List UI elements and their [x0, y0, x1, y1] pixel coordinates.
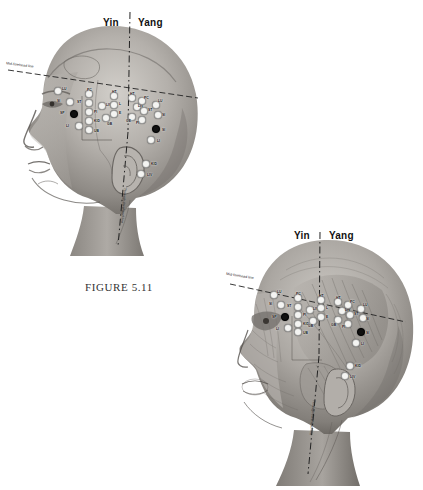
acupoint-label-gb: GB	[107, 122, 112, 126]
acupoint-label-li: LI	[66, 124, 69, 128]
acupoint-st	[85, 99, 93, 107]
acupoint-label-lu: LU	[277, 290, 282, 294]
acupoint-label-pi: PI	[303, 313, 306, 317]
acupoint-liv	[137, 170, 145, 178]
acupoint-label-ht: HT	[130, 92, 135, 96]
acupoint-label-li: LI	[276, 327, 279, 331]
acupoint-st	[140, 107, 148, 115]
acupoint-label-st: ST	[77, 100, 81, 104]
acupoint-lu	[54, 87, 62, 95]
figure-top: Yin Yang Mid-forehead line Through-foreh…	[0, 0, 230, 265]
acupoint-liv	[98, 102, 106, 110]
acupoint-label-ub: UB	[303, 331, 308, 335]
acupoint-label-pc: PC	[296, 292, 301, 296]
acupoint-label-sp: SP	[60, 111, 65, 115]
yin-label-bottom: Yin	[294, 230, 310, 241]
yin-yang-axis-top	[0, 0, 230, 265]
acupoint-pi	[294, 311, 302, 319]
acupoint-label-li: LI	[361, 342, 364, 346]
acupoint-e	[317, 313, 325, 321]
acupoint-label-l: L	[119, 102, 121, 106]
acupoint-label-kid: KID	[94, 119, 100, 123]
acupoint-l	[110, 101, 118, 109]
acupoint-label-e: E	[326, 315, 328, 319]
acupoint-li	[147, 136, 155, 144]
acupoint-label-st: ST	[287, 304, 291, 308]
acupoint-label-e: E	[119, 111, 121, 115]
yang-label-bottom: Yang	[329, 230, 354, 241]
acupoint-si	[357, 328, 365, 336]
acupoint-gb	[102, 114, 110, 122]
acupoint-pi	[85, 108, 93, 116]
acupoint-label-li: LI	[157, 139, 160, 143]
acupoint-label-lu: LU	[158, 99, 163, 103]
acupoint-label-gb: GB	[331, 323, 336, 327]
acupoint-label-si: SI	[269, 302, 272, 306]
acupoint-label-pi: PI	[342, 325, 345, 329]
acupoint-label-si: SI	[366, 317, 369, 321]
acupoint-si	[152, 125, 160, 133]
acupoint-l	[317, 304, 325, 312]
yin-yang-axis-bottom	[228, 222, 423, 490]
yin-label-top: Yin	[103, 17, 119, 28]
acupoint-label-pc: PC	[144, 96, 149, 100]
acupoint-st	[294, 303, 302, 311]
acupoint-si	[154, 111, 162, 119]
acupoint-si	[277, 301, 285, 309]
acupoint-label-pc: PC	[350, 300, 355, 304]
acupoint-label-kid: KID	[151, 162, 157, 166]
acupoint-label-liv: LIV	[350, 375, 355, 379]
acupoint-label-pi: PI	[136, 121, 139, 125]
acupoint-label-gb: GB	[308, 324, 313, 328]
acupoint-sp	[70, 110, 78, 118]
acupoint-label-ht: HT	[336, 296, 341, 300]
acupoint-label-si: SI	[162, 113, 165, 117]
acupoint-kid	[346, 362, 354, 370]
acupoint-label-ht: HT	[319, 294, 324, 298]
acupoint-label-si: SI	[162, 128, 165, 132]
acupoint-sp	[281, 313, 289, 321]
acupoint-label-pi: PI	[94, 110, 97, 114]
acupoint-label-si: SI	[366, 331, 369, 335]
acupoint-kid	[85, 117, 93, 125]
acupoint-label-kid: KID	[355, 364, 361, 368]
acupoint-label-pc: PC	[87, 88, 92, 92]
acupoint-label-l: L	[326, 306, 328, 310]
acupoint-label-ge: GE	[126, 119, 131, 123]
acupoint-li	[284, 324, 292, 332]
acupoint-label-ht: HT	[112, 90, 117, 94]
acupoint-label-st: ST	[354, 312, 358, 316]
acupoint-e	[110, 110, 118, 118]
acupoint-kid	[142, 160, 150, 168]
figure-bottom: Yin Yang Mid-forehead line Through-foreh…	[228, 222, 423, 490]
acupoint-si	[66, 98, 74, 106]
acupoint-liv	[341, 372, 349, 380]
acupoint-kid	[294, 320, 302, 328]
acupoint-label-lu: LU	[62, 87, 67, 91]
acupoint-li	[75, 122, 83, 130]
figure-caption: FIGURE 5.11	[85, 281, 153, 293]
acupoint-ub	[294, 328, 302, 336]
acupoint-label-liv: LIV	[147, 173, 152, 177]
acupoint-label-st: ST	[148, 108, 152, 112]
acupoint-label-sp: SP	[272, 315, 277, 319]
acupoint-st	[346, 311, 354, 319]
acupoint-label-lu: LU	[363, 303, 368, 307]
yang-label-top: Yang	[138, 17, 163, 28]
acupoint-ub	[85, 126, 93, 134]
acupoint-label-si: SI	[57, 99, 60, 103]
acupoint-label-ub: UB	[94, 129, 99, 133]
acupoint-li	[352, 339, 360, 347]
